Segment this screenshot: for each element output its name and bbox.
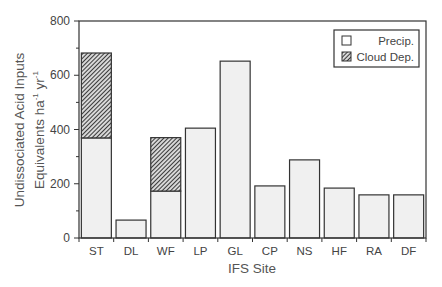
x-tick-label: CP	[262, 245, 278, 257]
y-tick-label: 0	[63, 231, 70, 245]
bars-group	[81, 53, 423, 238]
bar-st	[81, 53, 111, 238]
x-tick-label: WF	[157, 245, 175, 257]
bar-segment-precip	[290, 160, 320, 238]
bar-segment-precip	[220, 61, 250, 238]
y-tick-label: 400	[50, 123, 70, 137]
y-axis-title-units: Equivalents ha	[32, 100, 47, 189]
x-tick-label: DL	[124, 245, 139, 257]
bar-wf	[151, 138, 181, 238]
bar-segment-precip	[255, 186, 285, 238]
bar-segment-precip	[359, 195, 389, 238]
bar-chart: 0200400600800 STDLWFLPGLCPNSHFRADF IFS S…	[0, 0, 442, 287]
bar-dl	[116, 220, 146, 238]
y-tick-label: 800	[50, 14, 70, 28]
bar-segment-cloud	[81, 53, 111, 138]
x-tick-label: LP	[193, 245, 207, 257]
bar-ns	[290, 160, 320, 238]
x-axis-title: IFS Site	[228, 261, 276, 276]
x-tick-label: RA	[366, 245, 382, 257]
y-axis-title: Undissociated Acid Inputs	[12, 52, 27, 207]
bar-gl	[220, 61, 250, 238]
bar-segment-precip	[394, 195, 424, 238]
bar-cp	[255, 186, 285, 238]
y-axis: 0200400600800	[50, 14, 79, 245]
bar-ra	[359, 195, 389, 238]
bar-hf	[324, 188, 354, 238]
bar-segment-precip	[185, 128, 215, 238]
bar-segment-precip	[151, 191, 181, 238]
bar-df	[394, 195, 424, 238]
legend-label-cloud: Cloud Dep.	[356, 51, 414, 63]
y-axis-title-sup2: -1	[31, 71, 40, 79]
x-tick-label: HF	[332, 245, 347, 257]
bar-segment-precip	[116, 220, 146, 238]
x-axis: STDLWFLPGLCPNSHFRADF	[79, 238, 426, 257]
legend: Precip. Cloud Dep.	[334, 30, 419, 67]
y-axis-title-line2-group: Equivalents ha-1 yr-1	[31, 71, 47, 189]
y-tick-label: 200	[50, 177, 70, 191]
x-tick-label: NS	[297, 245, 313, 257]
bar-segment-cloud	[151, 138, 181, 191]
legend-label-precip: Precip.	[378, 35, 414, 47]
bar-lp	[185, 128, 215, 238]
y-axis-title-line2: Equivalents ha-1 yr-1	[31, 71, 47, 189]
bar-segment-precip	[81, 138, 111, 238]
y-axis-title-line1: Undissociated Acid Inputs	[12, 52, 27, 207]
legend-swatch-cloud	[342, 52, 351, 61]
x-tick-label: DF	[401, 245, 416, 257]
x-tick-label: GL	[227, 245, 243, 257]
y-tick-label: 600	[50, 68, 70, 82]
y-axis-title-unit2: yr	[32, 78, 47, 94]
legend-swatch-precip	[342, 36, 351, 45]
x-tick-label: ST	[89, 245, 104, 257]
bar-segment-precip	[324, 188, 354, 238]
